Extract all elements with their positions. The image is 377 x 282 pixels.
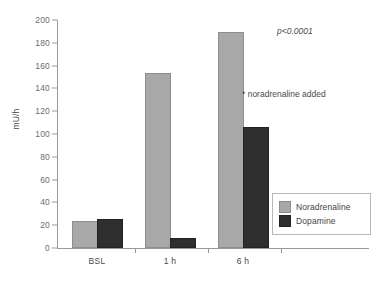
- x-tick-mark-1: [208, 248, 209, 253]
- x-tick-label-1h: 1 h: [140, 256, 200, 266]
- bar-dopamine-6h: [243, 127, 269, 248]
- legend: Noradrenaline Dopamine: [272, 193, 371, 235]
- x-tick-label-bsl: BSL: [67, 256, 127, 266]
- y-tick-label-100: 100: [35, 129, 50, 139]
- bar-group-1h: [145, 20, 195, 248]
- bar-group-bsl: [72, 20, 122, 248]
- y-tick-label-120: 120: [35, 106, 50, 116]
- legend-label-noradrenaline: Noradrenaline: [296, 202, 351, 212]
- bar-dopamine-1h: [170, 238, 196, 248]
- y-tick-label-0: 0: [45, 243, 50, 253]
- y-tick-label-80: 80: [40, 152, 50, 162]
- legend-label-dopamine: Dopamine: [296, 216, 336, 226]
- legend-item-dopamine: Dopamine: [279, 215, 363, 227]
- y-axis-ticks: 020406080100120140160180200: [0, 0, 58, 282]
- y-tick-label-180: 180: [35, 38, 50, 48]
- bar-chart: mU/h 020406080100120140160180200 BSL1 h6…: [0, 0, 377, 282]
- x-tick-mark-0: [135, 248, 136, 253]
- noradrenaline-added-annotation: * noradrenaline added: [242, 89, 326, 99]
- bar-group-6h: [218, 20, 268, 248]
- y-tick-label-200: 200: [35, 15, 50, 25]
- x-tick-label-6h: 6 h: [213, 256, 273, 266]
- legend-swatch-dopamine: [279, 215, 291, 227]
- legend-item-noradrenaline: Noradrenaline: [279, 201, 363, 213]
- bar-dopamine-bsl: [97, 219, 123, 248]
- bar-noradrenaline-1h: [145, 73, 171, 248]
- bar-noradrenaline-6h: [218, 32, 244, 248]
- p-value-annotation: p<0.0001: [277, 26, 313, 36]
- y-tick-label-140: 140: [35, 83, 50, 93]
- x-tick-mark-2: [281, 248, 282, 253]
- y-tick-label-20: 20: [40, 220, 50, 230]
- y-tick-label-160: 160: [35, 61, 50, 71]
- bar-noradrenaline-bsl: [72, 221, 98, 248]
- legend-swatch-noradrenaline: [279, 201, 291, 213]
- y-tick-label-40: 40: [40, 197, 50, 207]
- x-axis-line: [57, 248, 369, 249]
- y-tick-label-60: 60: [40, 175, 50, 185]
